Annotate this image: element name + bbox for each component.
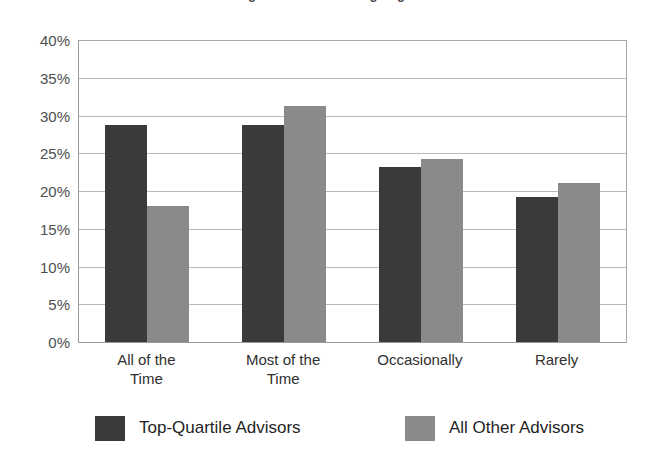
y-axis-tick-label: 30% <box>0 108 70 123</box>
x-axis-category-line: Time <box>78 369 215 388</box>
bar <box>105 125 147 342</box>
y-axis-tick-label: 10% <box>0 259 70 274</box>
y-axis-tick-label: 0% <box>0 335 70 350</box>
y-axis-tick-label: 15% <box>0 221 70 236</box>
x-axis-category-line: All of the <box>78 350 215 369</box>
bar <box>558 183 600 342</box>
x-axis-category-label: All of theTime <box>78 350 215 388</box>
bar <box>379 167 421 342</box>
x-axis-category-label: Rarely <box>488 350 625 369</box>
y-axis-tick-label: 25% <box>0 146 70 161</box>
bar <box>147 206 189 342</box>
legend-entry[interactable]: Top-Quartile Advisors <box>95 411 301 445</box>
x-axis-category-line: Occasionally <box>352 350 489 369</box>
x-axis-category-line: Most of the <box>215 350 352 369</box>
x-axis-category-line: Rarely <box>488 350 625 369</box>
y-axis-tick-label: 5% <box>0 297 70 312</box>
y-axis-tick-label: 20% <box>0 184 70 199</box>
y-axis-tick-label: 35% <box>0 70 70 85</box>
legend-label: Top-Quartile Advisors <box>139 418 301 438</box>
y-axis-tick-label: 40% <box>0 33 70 48</box>
chart-title: Percentage of Advisors Using Segmentatio… <box>0 0 660 3</box>
x-axis-category-label: Most of theTime <box>215 350 352 388</box>
bar <box>242 125 284 342</box>
bar-chart: Percentage of Advisors Using Segmentatio… <box>0 0 660 461</box>
legend-entry[interactable]: All Other Advisors <box>405 411 584 445</box>
x-axis: All of theTimeMost of theTimeOccasionall… <box>78 350 625 400</box>
bars-layer <box>79 40 626 342</box>
y-axis: 40%35%30%25%20%15%10%5%0% <box>0 28 70 354</box>
bar <box>516 197 558 342</box>
legend-label: All Other Advisors <box>449 418 584 438</box>
bar <box>421 159 463 342</box>
x-axis-category-label: Occasionally <box>352 350 489 369</box>
x-axis-category-line: Time <box>215 369 352 388</box>
legend-color-swatch <box>405 416 435 441</box>
chart-legend: Top-Quartile AdvisorsAll Other Advisors <box>78 411 625 451</box>
bar <box>284 106 326 342</box>
plot-area <box>78 40 627 343</box>
legend-color-swatch <box>95 416 125 441</box>
